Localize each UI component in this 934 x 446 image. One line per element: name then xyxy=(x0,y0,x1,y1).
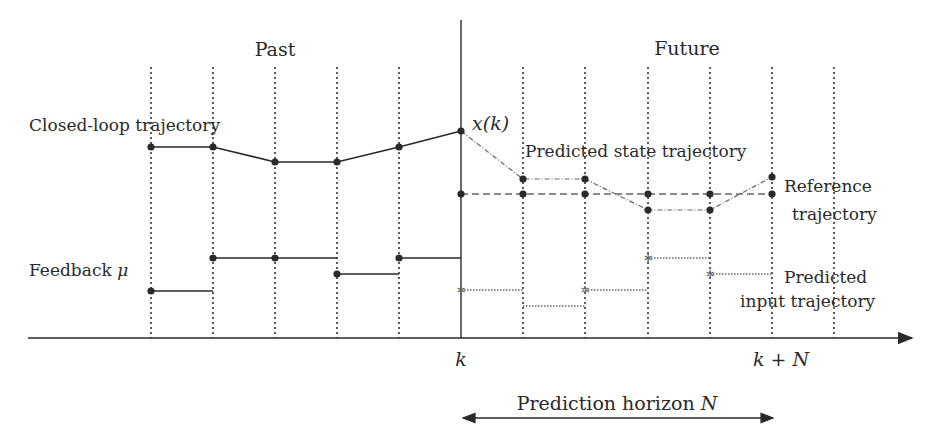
trajectory-point xyxy=(644,206,651,213)
past-label: Past xyxy=(255,38,296,60)
predicted-input-star-icon: ✲ xyxy=(580,284,589,297)
trajectory-point xyxy=(706,206,713,213)
predicted-input-star-icon: ✲ xyxy=(643,252,652,265)
trajectory-point xyxy=(644,190,651,197)
trajectory-point xyxy=(581,190,588,197)
trajectory-point xyxy=(519,190,526,197)
feedback-point xyxy=(147,287,154,294)
reference-label-line1: Reference xyxy=(784,176,872,196)
tick-k-plus-n-label: k + N xyxy=(753,348,811,370)
time-grid-lines xyxy=(151,67,834,338)
trajectory-point xyxy=(519,175,526,182)
prediction-horizon-label: Prediction horizon N xyxy=(517,392,719,414)
trajectory-point xyxy=(333,158,340,165)
future-label: Future xyxy=(654,37,720,59)
predicted-state-label: Predicted state trajectory xyxy=(525,141,747,161)
feedback-point xyxy=(271,254,278,261)
feedback-point xyxy=(395,254,402,261)
predicted-input-label-line2: input trajectory xyxy=(740,291,876,311)
trajectory-point xyxy=(457,190,464,197)
trajectory-point xyxy=(395,143,402,150)
trajectory-point xyxy=(768,173,775,180)
mpc-diagram: ✲✲✲✲ Past Future Closed-loop trajectory … xyxy=(0,0,934,446)
state-xk-label: x(k) xyxy=(472,112,509,134)
trajectory-point xyxy=(581,175,588,182)
horizon-text: Prediction horizon xyxy=(517,392,695,414)
trajectory-point xyxy=(209,143,216,150)
trajectory-point xyxy=(706,190,713,197)
trajectory-point xyxy=(768,190,775,197)
predicted-input-label-line1: Predicted xyxy=(784,267,867,287)
predicted-input-star-icon: ✲ xyxy=(705,268,714,281)
trajectory-point xyxy=(147,143,154,150)
feedback-text: Feedback xyxy=(29,260,112,280)
horizon-symbol: N xyxy=(700,392,719,414)
predicted-input-star-icon: ✲ xyxy=(456,284,465,297)
tick-k-label: k xyxy=(455,348,467,370)
feedback-point xyxy=(209,254,216,261)
feedback-point xyxy=(333,270,340,277)
feedback-symbol: μ xyxy=(117,260,128,280)
feedback-label: Feedback μ xyxy=(29,260,128,280)
trajectory-point xyxy=(457,127,464,134)
trajectory-point xyxy=(271,158,278,165)
closed-loop-label: Closed-loop trajectory xyxy=(29,115,220,135)
closed-loop-trajectory xyxy=(151,131,461,162)
reference-label-line2: trajectory xyxy=(792,204,877,224)
